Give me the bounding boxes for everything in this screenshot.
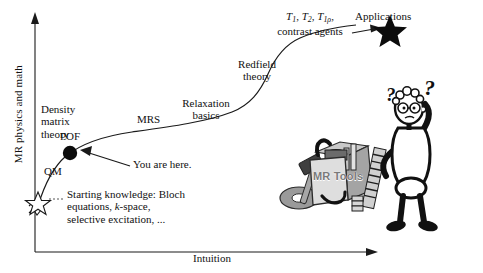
right-arrow-icon <box>366 248 378 256</box>
star-outline-icon <box>26 192 51 215</box>
puzzled-stick-figure-icon <box>383 87 439 233</box>
redfield-line-2: theory <box>231 70 283 82</box>
label-relaxation-basics: Relaxation basics <box>174 97 238 122</box>
callout-you-are-here: You are here. <box>133 158 191 170</box>
callout-starting-knowledge: Starting knowledge: Bloch equations, k-s… <box>67 188 185 225</box>
starting-line-2: equations, k-space, <box>67 200 185 212</box>
density-line-2: matrix <box>41 115 75 127</box>
starting-line-1: Starting knowledge: Bloch <box>67 188 185 200</box>
label-pof: POF <box>60 130 80 142</box>
question-mark-1: ? <box>386 84 396 105</box>
contrast-agents-line: contrast agents <box>262 25 358 37</box>
starting-line-2-a: equations, <box>67 200 115 212</box>
toolbox-label: MR Tools <box>313 170 363 182</box>
starting-line-2-b: -space, <box>120 200 151 212</box>
filled-circle-icon <box>63 146 77 160</box>
label-relaxation-times: T1, T2, T1ρ, contrast agents <box>262 10 358 37</box>
question-mark-2: ? <box>424 76 435 101</box>
starting-line-3: selective excitation, ... <box>67 213 185 225</box>
relaxation-line-2: basics <box>174 109 238 121</box>
y-axis <box>31 12 39 252</box>
label-applications: Applications <box>355 10 411 22</box>
up-arrow-icon <box>31 12 39 24</box>
y-axis-label: MR physics and math <box>12 54 24 174</box>
redfield-line-1: Redfield <box>231 58 283 70</box>
density-line-1: Density <box>41 103 75 115</box>
label-qm: QM <box>44 165 62 177</box>
arrow-icon <box>80 146 130 166</box>
relaxation-times-line: T1, T2, T1ρ, <box>262 10 358 25</box>
relaxation-line-1: Relaxation <box>174 97 238 109</box>
label-mrs: MRS <box>137 113 160 125</box>
mr-learning-curve-figure: MR physics and math Intuition Density ma… <box>0 0 483 273</box>
label-redfield-theory: Redfield theory <box>231 58 283 83</box>
t1rho-subscript: 1ρ <box>323 15 331 24</box>
sep-3: , <box>331 10 334 22</box>
x-axis-label: Intuition <box>193 252 231 264</box>
